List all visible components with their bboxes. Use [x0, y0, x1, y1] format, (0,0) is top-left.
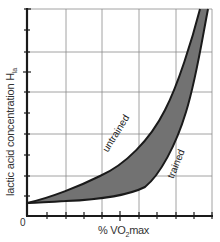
- lactate-chart: [0, 0, 220, 242]
- x-axis-label: % VO2max: [98, 224, 149, 238]
- difference-area: [27, 9, 208, 203]
- x-axis-label-suffix: max: [129, 224, 149, 236]
- y-axis-label: lactic acid concentration Hla: [4, 68, 18, 196]
- origin-label: 0: [20, 217, 26, 228]
- x-axis-label-prefix: % VO: [98, 224, 126, 236]
- y-axis-label-text: lactic acid concentration H: [4, 73, 16, 196]
- y-axis-label-subscript: la: [11, 68, 18, 73]
